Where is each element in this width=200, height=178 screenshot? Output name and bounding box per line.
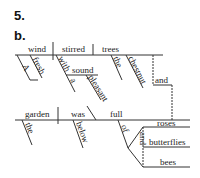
- word-trees: trees: [102, 44, 119, 54]
- word-with: with: [56, 54, 73, 73]
- word-below: below: [74, 120, 91, 145]
- word-and: and: [155, 75, 168, 85]
- word-chestnut: chestnut: [126, 54, 149, 86]
- sentence-diagram: wind stirred trees A fresh with sound a …: [0, 0, 200, 178]
- word-sound: sound: [72, 65, 94, 75]
- word-full: full: [110, 109, 123, 119]
- word-the: the: [111, 55, 125, 69]
- word-the2: the: [23, 121, 36, 135]
- word-butterflies: butterflies: [149, 137, 186, 147]
- word-pleasant: pleasant: [86, 73, 110, 104]
- word-was: was: [71, 109, 85, 119]
- word-a2: a: [68, 76, 79, 84]
- word-and2: and: [138, 132, 148, 145]
- word-garden: garden: [25, 109, 50, 119]
- word-fresh: fresh: [30, 55, 48, 76]
- word-roses: roses: [157, 118, 176, 128]
- word-bees: bees: [160, 157, 176, 167]
- word-stirred: stirred: [62, 44, 85, 54]
- word-wind: wind: [28, 44, 47, 54]
- word-of: of: [119, 123, 131, 133]
